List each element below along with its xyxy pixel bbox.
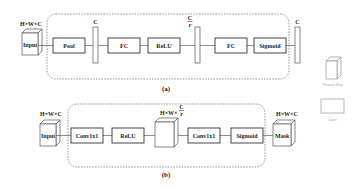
legend-layer-icon <box>321 99 344 113</box>
relu-label-a: ReLU <box>156 43 172 49</box>
input-label-b: Input <box>41 133 55 139</box>
fc-label-2: FC <box>227 43 235 49</box>
caption-a: (a) <box>162 85 171 93</box>
vector-c-2 <box>295 27 300 63</box>
input-dim-a: H×W×C <box>20 21 42 27</box>
sigmoid-label-a: Sigmoid <box>259 43 281 49</box>
conv1x1-label-2: Conv1x1 <box>193 133 216 139</box>
vector-c-1 <box>93 27 98 63</box>
mid-frac-num: C <box>179 104 183 110</box>
relu-label-b: ReLU <box>120 133 136 139</box>
output-dim-b: H×W×C <box>276 111 298 117</box>
mid-dim: H×W× <box>160 110 178 116</box>
legend-feature-map-label: Feature Map <box>323 83 343 87</box>
vector-c-1-label: C <box>93 19 97 25</box>
fraction-num-a: C <box>188 15 192 21</box>
diagram-a: H×W×C Input Pool C FC ReLU C r FC Si <box>20 14 300 93</box>
conv1x1-label-1: Conv1x1 <box>76 133 99 139</box>
input-label-a: Input <box>23 42 37 48</box>
intermediate-feature-cube <box>155 118 178 147</box>
caption-b: (b) <box>162 171 171 179</box>
legend-feature-map-icon <box>326 57 341 79</box>
mask-label: Mask <box>275 133 290 139</box>
diagram-canvas: H×W×C Input Pool C FC ReLU C r FC Si <box>0 0 364 188</box>
pool-label: Pool <box>63 43 75 49</box>
fraction-den-a: r <box>189 22 192 28</box>
legend-layer-label: Layer <box>328 118 338 122</box>
input-dim-b: H×W×C <box>40 111 62 117</box>
vector-c-2-label: C <box>295 19 299 25</box>
diagram-b: H×W×C Input Conv1x1 ReLU H×W× C r Conv1x… <box>40 104 298 179</box>
legend: Feature Map Layer <box>321 57 344 122</box>
vector-c-over-r <box>195 27 200 63</box>
mid-frac-den: r <box>180 111 183 117</box>
sigmoid-label-b: Sigmoid <box>236 133 258 139</box>
fc-label-1: FC <box>120 43 128 49</box>
